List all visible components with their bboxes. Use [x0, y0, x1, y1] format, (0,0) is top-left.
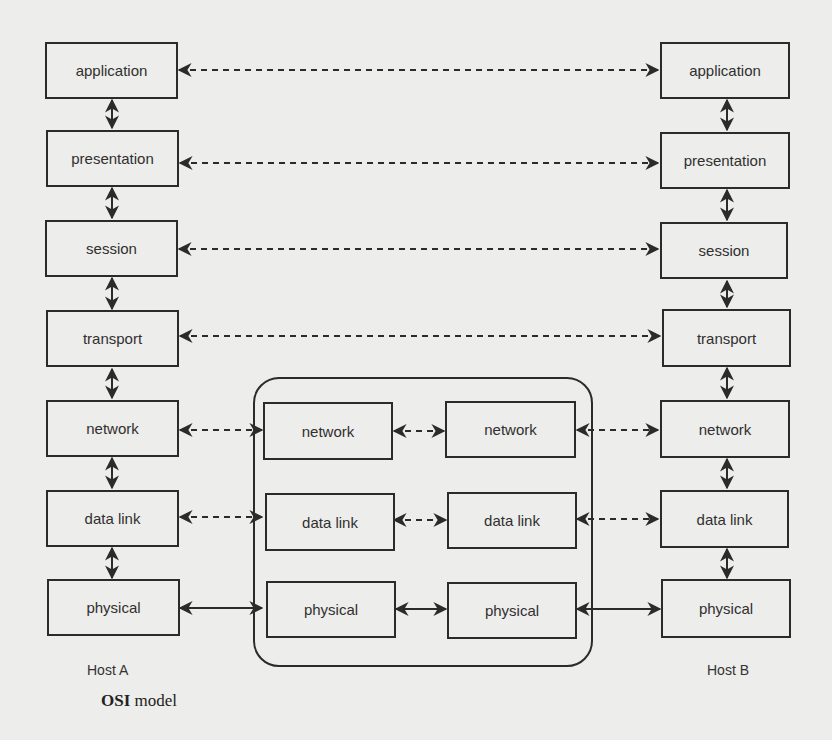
layer-label: transport	[697, 330, 756, 347]
layer-label: physical	[304, 601, 358, 618]
layer-label: data link	[697, 511, 753, 528]
layer-label: network	[699, 421, 752, 438]
layer-label: physical	[485, 602, 539, 619]
layer-label: presentation	[71, 150, 154, 167]
router-left-physical-layer: physical	[266, 581, 396, 638]
host-b-application-layer: application	[660, 42, 790, 99]
caption-rest: model	[130, 691, 177, 710]
router-left-data-link-layer: data link	[265, 493, 395, 551]
layer-label: network	[302, 423, 355, 440]
layer-label: session	[699, 242, 750, 259]
layer-label: data link	[85, 510, 141, 527]
host-a-data-link-layer: data link	[46, 490, 179, 547]
layer-label: data link	[302, 514, 358, 531]
layer-label: transport	[83, 330, 142, 347]
host-a-transport-layer: transport	[46, 310, 179, 367]
host-b-data-link-layer: data link	[660, 490, 789, 548]
router-right-network-layer: network	[445, 401, 576, 458]
layer-label: physical	[699, 600, 753, 617]
layer-label: presentation	[684, 152, 767, 169]
layer-label: data link	[484, 512, 540, 529]
layer-label: application	[689, 62, 761, 79]
router-right-data-link-layer: data link	[447, 492, 577, 549]
layer-label: application	[76, 62, 148, 79]
host-a-application-layer: application	[45, 42, 178, 99]
router-right-physical-layer: physical	[447, 582, 577, 639]
layer-label: session	[86, 240, 137, 257]
caption-bold: OSI	[101, 691, 130, 710]
host-b-transport-layer: transport	[662, 309, 791, 367]
host-a-session-layer: session	[45, 220, 178, 277]
host-a-network-layer: network	[46, 400, 179, 457]
router-left-network-layer: network	[263, 402, 393, 460]
host-b-label: Host B	[707, 662, 749, 678]
host-b-network-layer: network	[660, 400, 790, 458]
host-a-presentation-layer: presentation	[46, 130, 179, 187]
diagram-caption: OSI model	[101, 691, 177, 711]
layer-label: physical	[86, 599, 140, 616]
host-b-session-layer: session	[660, 222, 788, 279]
host-b-presentation-layer: presentation	[660, 132, 790, 189]
layer-label: network	[484, 421, 537, 438]
host-a-physical-layer: physical	[47, 579, 180, 636]
host-a-label: Host A	[87, 662, 128, 678]
layer-label: network	[86, 420, 139, 437]
host-b-physical-layer: physical	[661, 579, 791, 638]
